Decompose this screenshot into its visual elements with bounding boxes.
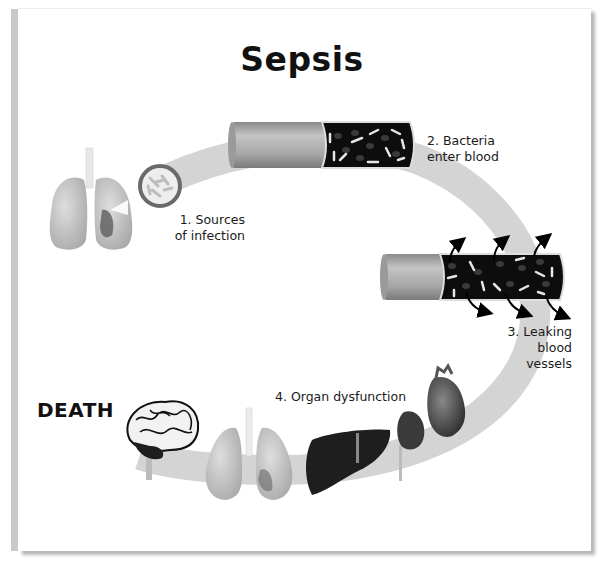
step-2-label: 2. Bacteria enter blood — [427, 133, 499, 165]
bacteria-circle-icon — [140, 166, 180, 206]
diagram-title: Sepsis — [0, 40, 604, 79]
lower-lungs-icon — [206, 408, 293, 500]
step-4-label: 4. Organ dysfunction — [275, 389, 406, 405]
lungs-icon — [50, 148, 132, 250]
heart-icon — [427, 366, 465, 437]
blood-vessel-icon — [228, 122, 414, 168]
step-3-label: 3. Leaking blood vessels — [500, 324, 572, 372]
step-1-label: 1. Sources of infection — [150, 212, 245, 244]
outcome-death-label: DEATH — [37, 398, 114, 422]
sepsis-cycle-illustration — [0, 0, 604, 561]
